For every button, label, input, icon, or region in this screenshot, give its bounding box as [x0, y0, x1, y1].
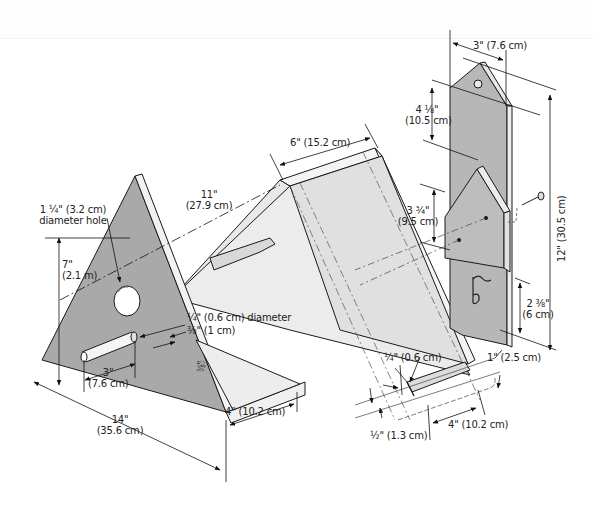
dowel-length-label: 3" (7.6 cm) [88, 367, 128, 389]
base-length-label: 14" (35.6 cm) [90, 414, 150, 436]
back-bottom-height-in: 2 ⅜" [520, 298, 556, 309]
strip-height-label: 1" (2.5 cm) [487, 352, 541, 363]
side-height-metric: (2.1 m) [62, 270, 97, 281]
strip-width-label: 4" (10.2 cm) [448, 419, 508, 430]
base-length-in: 14" [90, 414, 150, 425]
back-panel [445, 62, 512, 347]
dowel-offset-label: ⅜" (1 cm) [187, 325, 235, 336]
back-mid-height-metric: (9.5 cm) [396, 216, 440, 227]
back-total-height-label: 12" (30.5 cm) [556, 196, 567, 262]
edge-mark-label: ⅞" [196, 361, 207, 372]
base-length-metric: (35.6 cm) [90, 425, 150, 436]
hole-size-label: 1 ¼" (3.2 cm) diameter hole [28, 204, 118, 226]
back-mid-height-in: 3 ¾" [396, 205, 440, 216]
hole-size-text: 1 ¼" (3.2 cm) [28, 204, 118, 215]
roof-width-label: 6" (15.2 cm) [290, 137, 350, 148]
roof-length-in: 11" [176, 189, 242, 200]
back-top-height-metric: (10.5 cm) [405, 115, 449, 126]
back-mid-height-label: 3 ¾" (9.5 cm) [396, 205, 440, 227]
floor-width-label: 4" (10.2 cm) [225, 406, 285, 417]
back-bottom-height-metric: (6 cm) [520, 309, 556, 320]
dowel-diameter-label: ¼" (0.6 cm) diameter [187, 312, 291, 323]
back-bottom-height-label: 2 ⅜" (6 cm) [520, 298, 556, 320]
side-height-label: 7" (2.1 m) [62, 259, 97, 281]
roof-length-label: 11" (27.9 cm) [176, 189, 242, 211]
side-height-in: 7" [62, 259, 97, 270]
back-top-height-in: 4 ⅛" [405, 104, 449, 115]
dowel-length-in: 3" [88, 367, 128, 378]
dowel-length-metric: (7.6 cm) [88, 378, 128, 389]
strip-thickness-label: ¼" (0.6 cm) [384, 352, 441, 363]
hole-desc-text: diameter hole [28, 215, 118, 226]
back-top-width-label: 3" (7.6 cm) [473, 40, 527, 51]
back-top-height-label: 4 ⅛" (10.5 cm) [405, 104, 449, 126]
roof-length-metric: (27.9 cm) [176, 200, 242, 211]
screw [522, 192, 544, 205]
strip-offset-label: ½" (1.3 cm) [370, 430, 427, 441]
